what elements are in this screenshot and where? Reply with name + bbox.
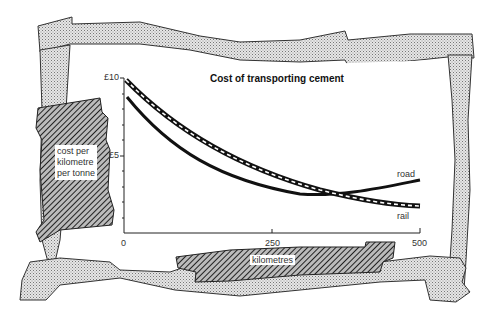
y-axis-label-line3: per tonne [57, 168, 95, 179]
x-axis-label: kilometres [250, 255, 295, 265]
chart-title: Cost of transporting cement [210, 73, 344, 84]
y-axis-label-line2: kilometre [57, 157, 95, 168]
rail-label: rail [397, 211, 409, 221]
y-axis-label: cost per kilometre per tonne [55, 145, 97, 180]
y-tick-10: £10 [104, 72, 119, 82]
road-label: road [397, 169, 415, 179]
x-tick-250: 250 [265, 238, 280, 248]
y-tick-5: £5 [109, 150, 119, 160]
x-tick-0: 0 [121, 238, 126, 248]
y-axis-label-line1: cost per [57, 146, 95, 157]
x-tick-500: 500 [412, 238, 427, 248]
